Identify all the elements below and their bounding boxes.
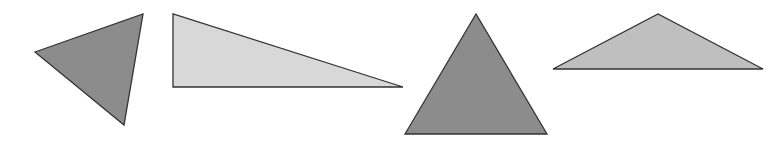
triangle-3 — [405, 14, 547, 134]
triangle-2 — [173, 14, 403, 87]
triangle-4 — [553, 14, 763, 69]
triangles-diagram — [0, 0, 771, 144]
triangle-1 — [35, 14, 143, 125]
